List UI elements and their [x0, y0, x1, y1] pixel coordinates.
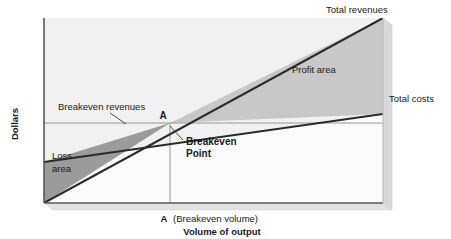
intersection-marker-label: A [159, 110, 166, 121]
x-axis-breakeven-text: (Breakeven volume) [173, 213, 258, 224]
breakeven-point-label-line1: Breakeven [186, 136, 237, 147]
breakeven-point-label-line2: Point [186, 148, 212, 159]
x-axis-title: Volume of output [183, 226, 261, 237]
total-revenues-label: Total revenues [326, 4, 388, 15]
x-axis-breakeven-marker: A [161, 213, 168, 224]
loss-area-label-line1: Loss [52, 150, 72, 161]
breakeven-chart-svg: Total revenues Total costs Breakeven rev… [0, 0, 451, 239]
loss-area-label-line2: area [52, 163, 72, 174]
breakeven-revenues-label: Breakeven revenues [58, 101, 145, 112]
plot-shadow-right [383, 18, 392, 210]
plot-shadow-bottom [44, 203, 392, 210]
total-costs-label: Total costs [389, 93, 434, 104]
breakeven-chart-figure: Total revenues Total costs Breakeven rev… [0, 0, 451, 239]
y-axis-title: Dollars [9, 108, 20, 140]
profit-area-label: Profit area [292, 64, 337, 75]
